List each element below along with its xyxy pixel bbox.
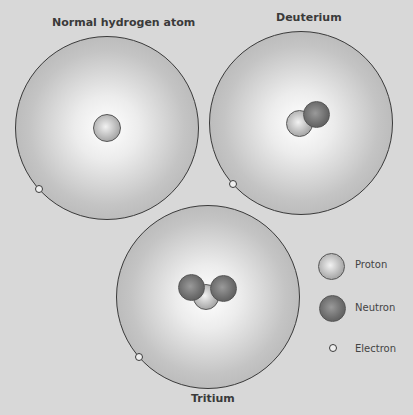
electron-icon xyxy=(135,353,143,361)
atom-title-hydrogen: Normal hydrogen atom xyxy=(52,16,195,29)
neutron-icon xyxy=(178,274,205,301)
legend-label-proton: Proton xyxy=(355,259,387,270)
atom-title-tritium: Tritium xyxy=(191,392,235,405)
electron-legend-icon xyxy=(329,344,337,352)
neutron-icon xyxy=(210,275,237,302)
proton-legend-icon xyxy=(318,253,345,280)
proton-icon xyxy=(93,114,121,142)
neutron-icon xyxy=(303,101,330,128)
legend-label-electron: Electron xyxy=(355,343,396,354)
legend-label-neutron: Neutron xyxy=(355,302,395,313)
electron-icon xyxy=(229,180,237,188)
atom-title-deuterium: Deuterium xyxy=(276,11,342,24)
electron-icon xyxy=(35,185,43,193)
neutron-legend-icon xyxy=(319,295,346,322)
